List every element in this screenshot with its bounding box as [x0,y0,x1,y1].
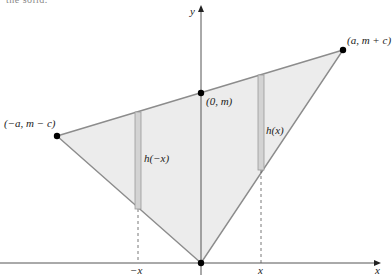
y-axis-label: y [189,5,195,17]
left-strip [135,112,141,209]
right-strip [258,75,264,170]
y-axis-arrow-icon [198,5,204,12]
origin-point [198,260,204,266]
top-vertex-label: (a, m + c) [347,34,391,47]
tick-x-label: x [257,264,263,275]
top-vertex-point [340,47,346,53]
left-vertex-label: (−a, m − c) [4,117,56,130]
x-axis-label: x [374,264,380,275]
triangle-region-diagram: y x (a, m + c) (−a, m − c) (0, m) h(−x) … [0,0,392,275]
triangle-region [57,50,343,263]
y-intercept-label: (0, m) [206,95,233,108]
h-x-label: h(x) [266,124,284,137]
left-vertex-point [54,133,60,139]
y-intercept-point [198,90,204,96]
h-neg-x-label: h(−x) [144,152,169,165]
tick-neg-x-label: −x [130,264,142,275]
